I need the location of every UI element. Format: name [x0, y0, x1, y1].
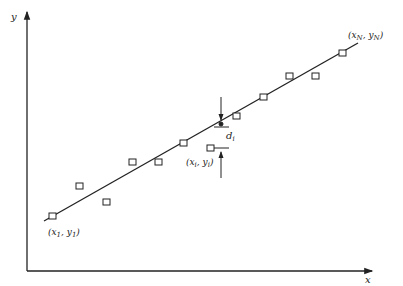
data-point [155, 159, 162, 165]
data-point-i [207, 145, 214, 151]
last-point-label: (xN, yN) [348, 30, 384, 42]
data-point [286, 73, 293, 79]
data-point [233, 113, 240, 119]
data-point [180, 140, 187, 146]
x-axis-label: x [365, 274, 371, 285]
ith-point-label: (xi, yi) [186, 157, 214, 169]
fit-line [44, 43, 358, 221]
data-point [312, 73, 319, 79]
data-point [129, 159, 136, 165]
data-point [339, 50, 346, 56]
data-point [103, 199, 110, 205]
distance-label: di [226, 130, 235, 143]
least-squares-diagram: y x di (xi, yi) (x1, y1) (xN, yN) [0, 0, 403, 286]
data-point [49, 213, 56, 219]
data-point [76, 183, 83, 189]
y-axis-label: y [10, 11, 17, 22]
first-point-label: (x1, y1) [48, 227, 80, 239]
data-point [260, 94, 267, 100]
